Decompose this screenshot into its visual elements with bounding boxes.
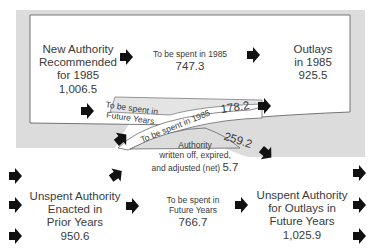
spent-future-label: To be spent in Future Years 766.7: [158, 196, 228, 229]
unspent-prior-label: Unspent Authority Enacted in Prior Years…: [28, 190, 122, 243]
unspent-future-label: Unspent Authority for Outlays in Future …: [256, 189, 348, 242]
arrow-icon: [9, 197, 22, 213]
arrow-icon: [353, 228, 366, 244]
arrow-icon: [9, 228, 22, 244]
arrow-icon: [235, 197, 248, 213]
arrow-icon: [9, 168, 22, 184]
outlays-label: Outlays in 1985 925.5: [283, 43, 343, 83]
new-authority-label: New Authority Recommended for 1985 1,006…: [36, 43, 120, 96]
spent-1985-label: To be spent in 1985 747.3: [140, 50, 240, 73]
arrow-icon: [353, 165, 366, 181]
arrow-icon: [353, 197, 366, 213]
arrow-icon: [106, 164, 126, 185]
written-off-label: Authority written off, expired, and adju…: [150, 141, 240, 174]
arrow-icon: [126, 198, 139, 214]
